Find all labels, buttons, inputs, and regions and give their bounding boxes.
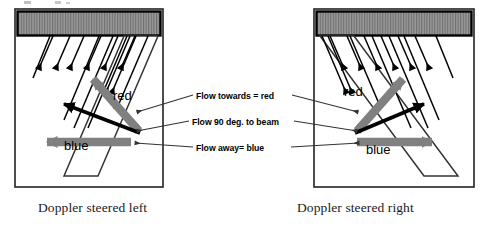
legend-flow-perpendicular-label: Flow 90 deg. to beam [192,117,279,127]
panel-left-red-label: red [113,88,132,103]
panel-right-caption: Doppler steered right [297,200,414,216]
panel-right-red-label: red [344,84,363,99]
top-cropped-text-fragments [24,1,70,4]
legend-flow-towards-label: Flow towards = red [196,91,274,101]
transducer-array [18,12,161,36]
panel-right [314,9,474,187]
transducer-array [317,12,472,36]
panel-right-blue-label: blue [366,142,391,157]
legend-flow-away-label: Flow away= blue [196,143,264,153]
panel-left-transducer [18,12,161,36]
panel-left [15,9,163,187]
panel-left-caption: Doppler steered left [38,200,147,216]
doppler-steering-figure [0,0,487,228]
panel-left-blue-label: blue [64,138,89,153]
panel-right-transducer [317,12,472,36]
